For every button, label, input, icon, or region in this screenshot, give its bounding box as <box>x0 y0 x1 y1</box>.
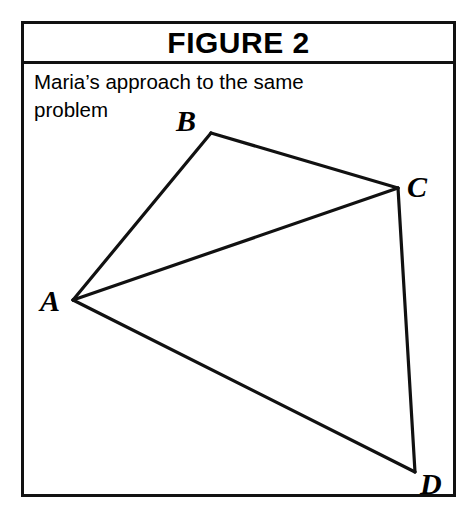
vertex-label-D: D <box>419 467 442 494</box>
vertex-label-A: A <box>38 284 60 317</box>
figure-body: Maria’s approach to the same problem ABC… <box>24 64 453 494</box>
geometry-diagram: ABCD <box>24 64 453 494</box>
figure-frame: FIGURE 2 Maria’s approach to the same pr… <box>21 21 456 497</box>
vertex-label-B: B <box>175 104 196 137</box>
vertex-labels: ABCD <box>38 104 442 494</box>
segment-BC <box>211 133 398 188</box>
polygon-edges <box>73 133 415 472</box>
vertex-label-C: C <box>407 170 428 203</box>
segment-AC <box>73 188 398 300</box>
segment-CD <box>398 188 415 472</box>
figure-header: FIGURE 2 <box>24 24 453 64</box>
segment-DA <box>73 300 415 472</box>
figure-title: FIGURE 2 <box>167 28 309 58</box>
